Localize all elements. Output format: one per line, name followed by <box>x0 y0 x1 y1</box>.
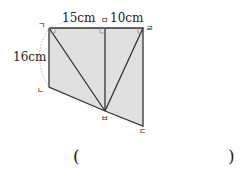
answer-open-paren: ( <box>73 146 80 166</box>
vertex-label-bottom-middle: ㅂ <box>101 114 108 123</box>
vertex-label-top-right: ㄹ <box>146 24 153 33</box>
vertex-label-bottom-right: ㄷ <box>139 127 146 136</box>
label-15cm: 15cm <box>62 11 96 25</box>
vertex-label-top-left: ㄱ <box>38 21 45 30</box>
answer-close-paren: ) <box>228 146 235 166</box>
label-16cm: 16cm <box>13 50 47 64</box>
label-10cm: 10cm <box>110 11 144 25</box>
shaded-region <box>49 28 143 126</box>
vertex-label-bottom-left: ㄴ <box>37 86 44 95</box>
vertex-label-top-middle: ㅁ <box>101 16 108 25</box>
answer-blank[interactable] <box>85 148 225 168</box>
